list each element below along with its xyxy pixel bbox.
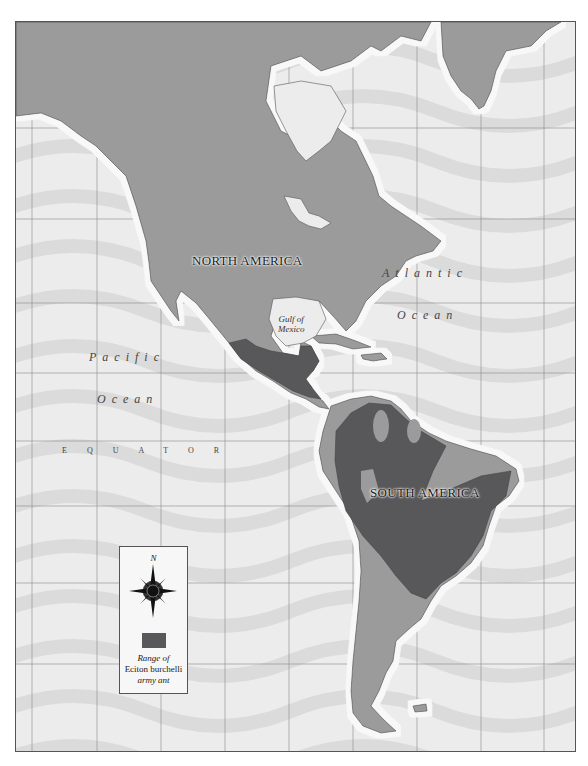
label-gulf-of-mexico: Gulf of Mexico — [278, 314, 304, 334]
label-atlantic: Atlantic — [382, 266, 468, 281]
north-label: N — [120, 553, 187, 563]
label-pacific: Pacific — [89, 350, 165, 365]
label-south-america: SOUTH AMERICA — [370, 485, 480, 501]
hispaniola-landmass — [361, 353, 387, 361]
label-atlantic-ocean: Ocean — [397, 308, 458, 323]
legend-text: Range of Eciton burchelli army ant — [120, 653, 187, 686]
map-canvas — [16, 22, 575, 751]
range-swatch — [142, 633, 166, 648]
label-north-america: NORTH AMERICA — [192, 253, 302, 269]
label-equator: EQUATOR — [62, 446, 239, 455]
map-frame: NORTH AMERICA SOUTH AMERICA Atlantic Oce… — [15, 21, 576, 752]
label-pacific-ocean: Ocean — [97, 392, 158, 407]
map-legend: N Range of Eciton burchelli army ant — [119, 546, 188, 694]
compass-rose-icon — [128, 563, 178, 619]
